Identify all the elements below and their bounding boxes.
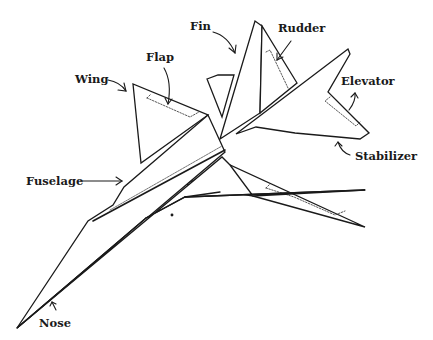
label-elevator: Elevator: [341, 76, 395, 88]
label-wing: Wing: [75, 74, 108, 86]
label-stabilizer: Stabilizer: [355, 151, 417, 163]
wing-arrow-icon: [108, 80, 126, 91]
label-fin: Fin: [190, 21, 211, 33]
label-flap: Flap: [146, 52, 174, 64]
fuselage-upper: [17, 115, 225, 328]
paper-airplane-diagram: [0, 0, 433, 340]
label-nose: Nose: [39, 318, 71, 330]
rudder-arrow-icon: [277, 41, 291, 60]
label-fuselage: Fuselage: [26, 176, 83, 188]
label-rudder: Rudder: [278, 23, 325, 35]
